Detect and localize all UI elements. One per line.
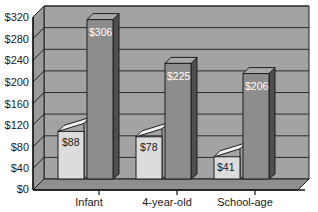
bar-side [191,57,197,179]
bar-infant-light: $88 [58,117,90,179]
x-category-label-4-year-old: 4-year-old [142,196,192,208]
y-tick-label-200: $200 [5,76,29,88]
bar-label-schoolage-light: $41 [217,161,235,173]
bar-fouryear-dark: $225 [165,57,197,179]
bar-top [87,14,119,20]
x-axis-labels: Infant 4-year-old School-age [75,196,273,208]
y-tick-label-160: $160 [5,98,29,110]
x-category-label-school-age: School-age [217,196,273,208]
bar-top [243,68,275,74]
y-tick-label-320: $320 [5,11,29,23]
bar-label-fouryear-dark: $225 [167,70,191,82]
y-tick-label-280: $280 [5,33,29,45]
bar-side [269,68,275,179]
y-tick-label-80: $80 [11,141,29,153]
y-tick-label-40: $40 [11,162,29,174]
bar-side [113,14,119,179]
plot-floor [33,179,309,190]
bar-label-schoolage-dark: $206 [245,80,269,92]
y-axis-labels: $320 $280 $240 $200 $160 $120 $80 $40 $0 [5,11,29,195]
y-tick-label-120: $120 [5,119,29,131]
bar-label-infant-light: $88 [62,136,80,148]
bar-schoolage-dark: $206 [243,68,275,179]
chart-canvas: $88 $306 $78 $225 [0,0,318,212]
bar-label-fouryear-light: $78 [140,141,158,153]
bar-label-infant-dark: $306 [89,26,113,38]
x-category-label-infant: Infant [75,196,103,208]
bar-face [87,20,113,179]
bar-infant-dark: $306 [87,14,119,179]
bar-top [165,57,197,63]
bar-chart: $88 $306 $78 $225 [0,0,318,212]
y-tick-label-0: $0 [17,183,29,195]
y-tick-label-240: $240 [5,54,29,66]
